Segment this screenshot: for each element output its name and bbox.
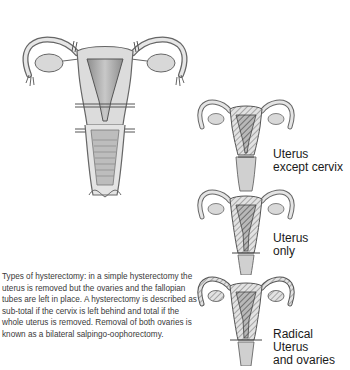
label-line: except cervix <box>273 161 343 174</box>
variant-subtotal-illustration <box>196 95 296 193</box>
label-radical: Radical Uterus and ovaries <box>273 328 335 367</box>
label-subtotal: Uterus except cervix <box>273 148 343 174</box>
label-line: and ovaries <box>273 354 335 367</box>
main-uterus-illustration <box>15 25 195 200</box>
label-total: Uterus only <box>273 232 308 258</box>
variant-total-illustration <box>196 185 296 275</box>
label-line: only <box>273 245 308 258</box>
figure-caption: Types of hysterectomy: in a simple hyste… <box>2 271 202 341</box>
